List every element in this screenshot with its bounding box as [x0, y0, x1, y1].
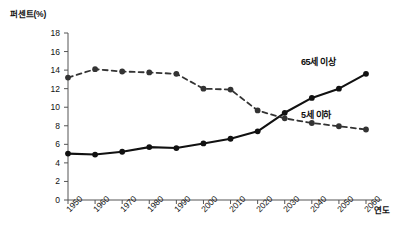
- data-point-marker: [282, 110, 288, 116]
- data-point-marker: [173, 145, 179, 151]
- data-point-marker: [201, 86, 207, 92]
- data-point-marker: [309, 95, 315, 101]
- data-point-marker: [146, 70, 152, 76]
- y-axis-title: 퍼센트(%): [10, 7, 46, 19]
- data-point-marker: [336, 123, 342, 129]
- data-point-marker: [92, 66, 98, 72]
- data-point-marker: [228, 87, 234, 93]
- y-tick-label: 18: [44, 28, 60, 38]
- data-point-marker: [146, 144, 152, 150]
- data-point-marker: [92, 152, 98, 158]
- y-tick-label: 12: [44, 84, 60, 94]
- y-tick-label: 8: [44, 121, 60, 131]
- y-tick-label: 6: [44, 139, 60, 149]
- data-point-marker: [255, 108, 261, 114]
- data-point-marker: [119, 69, 125, 75]
- y-tick-label: 2: [44, 176, 60, 186]
- data-point-marker: [119, 149, 125, 155]
- y-tick-label: 4: [44, 158, 60, 168]
- data-point-marker: [65, 75, 71, 81]
- data-point-marker: [201, 141, 207, 147]
- population-share-line-chart: 퍼센트(%) 연도 024681012141618 19501960197019…: [0, 0, 406, 239]
- data-point-marker: [65, 151, 71, 157]
- series-2: [65, 66, 369, 132]
- y-tick-label: 10: [44, 102, 60, 112]
- data-point-marker: [173, 71, 179, 77]
- series-label: 5세 이하: [301, 108, 331, 121]
- y-tick-label: 14: [44, 65, 60, 75]
- data-point-marker: [363, 71, 369, 77]
- data-point-marker: [336, 86, 342, 92]
- data-point-marker: [255, 128, 261, 134]
- data-point-marker: [282, 115, 288, 121]
- y-tick-label: 16: [44, 47, 60, 57]
- series-label: 65세 이상: [301, 55, 336, 68]
- data-point-marker: [363, 127, 369, 133]
- y-axis-ticks: [64, 33, 68, 200]
- data-point-marker: [228, 136, 234, 142]
- y-tick-label: 0: [44, 195, 60, 205]
- data-point-marker: [309, 120, 315, 126]
